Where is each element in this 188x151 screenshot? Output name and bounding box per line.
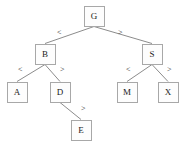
binary-search-tree-diagram: GBSADMXE <><><>> xyxy=(0,0,188,151)
edge-label-g-b: < xyxy=(57,29,62,37)
tree-node-s: S xyxy=(142,44,163,65)
tree-node-label: M xyxy=(123,87,131,96)
tree-node-label: A xyxy=(14,87,21,96)
tree-node-a: A xyxy=(7,82,28,103)
edge-label-s-x: > xyxy=(167,66,172,74)
edge-label-g-s: > xyxy=(118,29,123,37)
tree-node-label: B xyxy=(42,49,48,58)
tree-node-m: M xyxy=(117,82,138,103)
tree-node-b: B xyxy=(35,44,56,65)
edge-label-d-e: > xyxy=(81,105,86,113)
tree-node-label: D xyxy=(57,87,64,96)
tree-edge-g-s xyxy=(94,27,152,44)
tree-node-label: G xyxy=(91,11,98,20)
tree-node-label: X xyxy=(165,87,172,96)
edge-label-b-a: < xyxy=(18,66,23,74)
tree-node-label: E xyxy=(78,125,84,134)
edge-label-b-d: > xyxy=(60,66,65,74)
tree-edge-g-b xyxy=(45,27,94,44)
tree-edge-s-x xyxy=(152,65,168,82)
tree-node-d: D xyxy=(50,82,71,103)
edge-label-s-m: < xyxy=(126,66,131,74)
tree-node-label: S xyxy=(149,49,154,58)
tree-node-e: E xyxy=(71,120,92,141)
tree-edge-d-e xyxy=(60,103,81,120)
edges-group xyxy=(17,27,168,120)
tree-node-x: X xyxy=(158,82,179,103)
tree-edge-b-d xyxy=(45,65,60,82)
tree-node-g: G xyxy=(84,6,105,27)
